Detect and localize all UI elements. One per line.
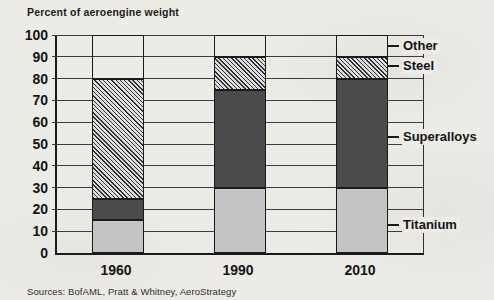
bar-segment-titanium-1960 <box>92 220 144 253</box>
series-label-dash-titanium <box>387 224 399 226</box>
y-axis-tick-label-20: 20 <box>0 202 48 216</box>
y-axis-tick-label-30: 30 <box>0 181 48 195</box>
chart-title: Percent of aeroengine weight <box>27 6 179 18</box>
bar-segment-other-1960 <box>92 35 144 79</box>
y-axis-tick-label-70: 70 <box>0 93 48 107</box>
bar-segment-other-1990 <box>214 35 266 57</box>
bar-segment-superalloys-1990 <box>214 90 266 188</box>
y-axis-tick-label-60: 60 <box>0 115 48 129</box>
y-axis-tick-label-40: 40 <box>0 159 48 173</box>
bar-segment-titanium-1990 <box>214 188 266 253</box>
x-axis-label-2010: 2010 <box>320 262 400 278</box>
series-label-dash-steel <box>387 65 399 67</box>
bar-segment-steel-2010 <box>336 57 388 79</box>
series-label-dash-other <box>387 45 399 47</box>
bar-segment-steel-1960 <box>92 79 144 199</box>
bar-segment-titanium-2010 <box>336 188 388 253</box>
y-axis-tick-label-10: 10 <box>0 224 48 238</box>
plot-area <box>55 35 424 255</box>
series-label-dash-superalloys <box>387 136 399 138</box>
bar-segment-superalloys-2010 <box>336 79 388 188</box>
series-label-titanium: Titanium <box>402 217 460 233</box>
source-note: Sources: BofAML, Pratt & Whitney, AeroSt… <box>27 286 236 297</box>
y-axis-tick-label-100: 100 <box>0 28 48 42</box>
bar-segment-steel-1990 <box>214 57 266 90</box>
x-axis-label-1990: 1990 <box>198 262 278 278</box>
y-axis-tick-label-50: 50 <box>0 137 48 151</box>
bar-segment-superalloys-1960 <box>92 199 144 221</box>
y-axis-tick-label-0: 0 <box>0 246 48 260</box>
chart-page: Percent of aeroengine weight 01020304050… <box>0 0 494 300</box>
series-label-other: Other <box>402 38 441 54</box>
series-label-superalloys: Superalloys <box>402 129 480 145</box>
y-axis-tick-label-80: 80 <box>0 72 48 86</box>
x-axis-label-1960: 1960 <box>76 262 156 278</box>
bar-segment-other-2010 <box>336 35 388 57</box>
series-label-steel: Steel <box>402 58 437 74</box>
y-axis-tick-label-90: 90 <box>0 50 48 64</box>
